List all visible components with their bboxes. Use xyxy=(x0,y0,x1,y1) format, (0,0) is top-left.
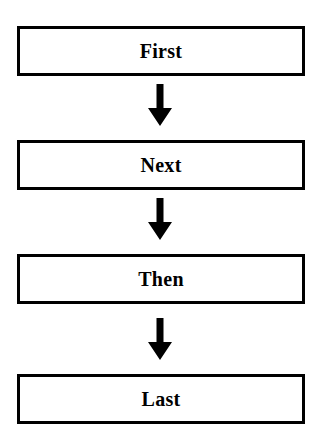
arrow-down-icon xyxy=(147,84,173,126)
flowchart-node-label: Then xyxy=(138,269,184,289)
flowchart-node-next: Next xyxy=(17,140,305,190)
flowchart-node-label: Next xyxy=(140,155,181,175)
flowchart-node-label: First xyxy=(140,41,183,61)
arrow-down-icon xyxy=(147,318,173,360)
flowchart-node-last: Last xyxy=(17,374,305,424)
flowchart-node-then: Then xyxy=(17,254,305,304)
flowchart-diagram: First Next Then Last xyxy=(0,0,321,441)
flowchart-node-label: Last xyxy=(142,389,181,409)
flowchart-node-first: First xyxy=(17,26,305,76)
arrow-down-icon xyxy=(147,198,173,240)
